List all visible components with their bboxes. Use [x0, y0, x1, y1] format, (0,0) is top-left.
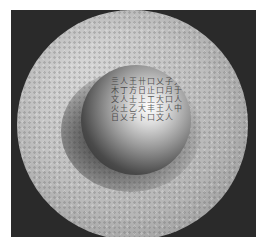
- central-boss: 亖人王卄口乂子大木丁方日止口月于文人士上工大口人火土乙大丰王人中日乂子卜口文人: [81, 65, 191, 175]
- photograph: 亖人王卄口乂子大木丁方日止口月于文人士上工大口人火土乙大丰王人中日乂子卜口文人: [11, 10, 256, 237]
- inscription: 亖人王卄口乂子大木丁方日止口月于文人士上工大口人火土乙大丰王人中日乂子卜口文人: [111, 77, 183, 163]
